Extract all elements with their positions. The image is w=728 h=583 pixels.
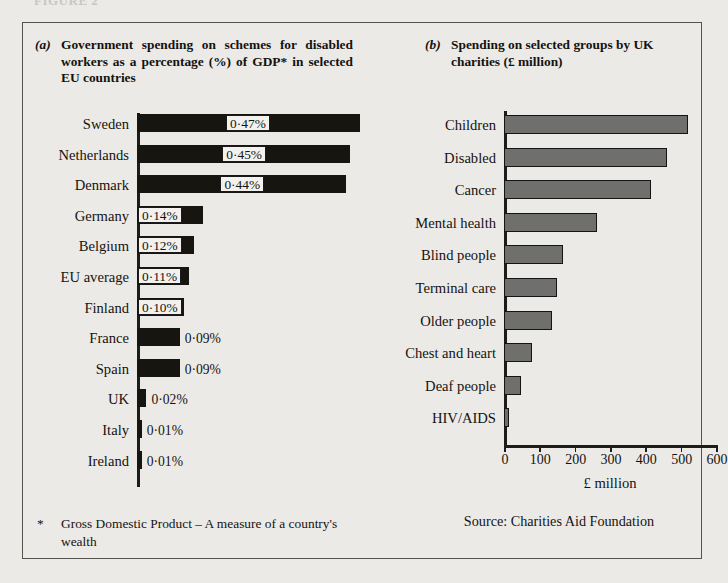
x-tick	[716, 445, 718, 452]
category-label: Spain	[23, 362, 129, 377]
bar-row: France0·09%	[23, 328, 413, 346]
x-tick-label: 400	[636, 453, 657, 467]
bar-row: Netherlands0·45%	[23, 145, 413, 163]
category-label: Mental health	[399, 216, 496, 231]
bar-row: Chest and heart	[413, 343, 703, 362]
bar-value-label: 0·11%	[138, 268, 181, 284]
x-tick-label: 500	[671, 453, 692, 467]
category-label: Blind people	[399, 248, 496, 263]
x-tick	[645, 445, 647, 452]
category-label: Netherlands	[23, 148, 129, 163]
bar-row: Deaf people	[413, 376, 703, 395]
category-label: Children	[399, 118, 496, 133]
panel-a-label: (a)	[35, 37, 61, 54]
panel-b: (b)Spending on selected groups by UK cha…	[413, 23, 703, 558]
bar	[504, 408, 509, 427]
category-label: Ireland	[23, 454, 129, 469]
bar-row: Blind people	[413, 245, 703, 264]
x-tick	[610, 445, 612, 452]
bar	[137, 451, 142, 469]
x-tick	[681, 445, 683, 452]
bar-row: Italy0·01%	[23, 420, 413, 438]
category-label: Sweden	[23, 117, 129, 132]
chart-panel-b: ChildrenDisabledCancerMental healthBlind…	[413, 107, 703, 507]
bar-row: Belgium0·12%	[23, 236, 413, 254]
x-tick-label: 100	[530, 453, 551, 467]
x-tick-label: 0	[502, 453, 509, 467]
footnote-text: Gross Domestic Product – A measure of a …	[61, 515, 367, 551]
bar-row: EU average0·11%	[23, 267, 413, 285]
category-label: EU average	[23, 270, 129, 285]
panel-a-title-text: Government spending on schemes for disab…	[61, 37, 353, 87]
bar	[137, 359, 180, 377]
panel-b-title-block: (b)Spending on selected groups by UK cha…	[425, 37, 695, 70]
x-tick	[539, 445, 541, 452]
bar	[137, 420, 142, 438]
figure-caption: FIGURE 2	[34, 0, 98, 9]
bar-row: Terminal care	[413, 278, 703, 297]
bar-row: Ireland0·01%	[23, 451, 413, 469]
bar	[504, 278, 557, 297]
category-label: Italy	[23, 423, 129, 438]
bar-value-label: 0·01%	[147, 424, 183, 438]
bar-row: Disabled	[413, 148, 703, 167]
category-label: Disabled	[399, 151, 496, 166]
bar-row: Denmark0·44%	[23, 175, 413, 193]
bar	[504, 115, 688, 134]
category-label: Denmark	[23, 178, 129, 193]
panel-b-title-text: Spending on selected groups by UK charit…	[451, 37, 689, 70]
category-label: Germany	[23, 209, 129, 224]
x-tick	[575, 445, 577, 452]
bar-row: Spain0·09%	[23, 359, 413, 377]
x-tick-label: 600	[707, 453, 728, 467]
bar-value-label: 0·45%	[222, 146, 266, 162]
figure-frame: (a)Government spending on schemes for di…	[22, 22, 702, 559]
category-label: Terminal care	[399, 281, 496, 296]
bar	[504, 376, 521, 395]
bar-row: Mental health	[413, 213, 703, 232]
category-label: Cancer	[399, 183, 496, 198]
bar-row: Germany0·14%	[23, 206, 413, 224]
panel-b-source: Source: Charities Aid Foundation	[425, 513, 693, 530]
bar-value-label: 0·02%	[151, 393, 187, 407]
bar-row: HIV/AIDS	[413, 408, 703, 427]
bar-row: UK0·02%	[23, 389, 413, 407]
footnote-marker: *	[37, 515, 44, 533]
x-tick-label: 300	[601, 453, 622, 467]
bar	[504, 180, 651, 199]
category-label: UK	[23, 392, 129, 407]
bar-value-label: 0·47%	[226, 115, 270, 131]
panel-b-label: (b)	[425, 37, 451, 54]
panel-a-footnote: * Gross Domestic Product – A measure of …	[37, 515, 367, 551]
bar-value-label: 0·14%	[138, 207, 182, 223]
bar-row: Sweden0·47%	[23, 114, 413, 132]
bar-value-label: 0·12%	[138, 237, 182, 253]
panel-a-title-block: (a)Government spending on schemes for di…	[35, 37, 365, 87]
bar-value-label: 0·01%	[147, 455, 183, 469]
bar-row: Cancer	[413, 180, 703, 199]
category-label: Belgium	[23, 239, 129, 254]
category-label: Finland	[23, 301, 129, 316]
bar	[504, 245, 563, 264]
bar	[504, 213, 597, 232]
bar-row: Finland0·10%	[23, 298, 413, 316]
bar	[504, 311, 552, 330]
bar-value-label: 0·09%	[185, 363, 221, 377]
category-label: Chest and heart	[399, 346, 496, 361]
panel-b-x-axis-title: £ million	[504, 475, 716, 492]
bar	[137, 389, 146, 407]
bar	[137, 328, 180, 346]
panel-a: (a)Government spending on schemes for di…	[23, 23, 413, 558]
bar	[504, 148, 667, 167]
bar-value-label: 0·09%	[185, 332, 221, 346]
category-label: HIV/AIDS	[399, 411, 496, 426]
bar-row: Older people	[413, 311, 703, 330]
x-tick	[504, 445, 506, 452]
bar	[504, 343, 532, 362]
bar-value-label: 0·10%	[138, 299, 182, 315]
category-label: Deaf people	[399, 379, 496, 394]
chart-panel-a: Sweden0·47%Netherlands0·45%Denmark0·44%G…	[23, 107, 413, 487]
bar-value-label: 0·44%	[220, 176, 264, 192]
x-tick-label: 200	[565, 453, 586, 467]
category-label: France	[23, 331, 129, 346]
